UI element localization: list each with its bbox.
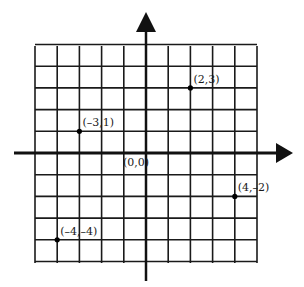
plotted-points: (2,3)(–3,1)(4,–2)(–4,–4) xyxy=(55,73,270,243)
point-label: (2,3) xyxy=(193,73,219,86)
point-label: (4,–2) xyxy=(238,181,270,194)
point-marker xyxy=(77,129,82,134)
point-marker xyxy=(55,237,60,242)
point-label: (–3,1) xyxy=(82,116,114,129)
coordinate-plane: (0,0) (2,3)(–3,1)(4,–2)(–4,–4) xyxy=(0,0,304,287)
point-marker xyxy=(232,194,237,199)
y-axis-arrow-icon xyxy=(136,12,156,32)
point-marker xyxy=(188,85,193,90)
x-axis-arrow-icon xyxy=(276,143,293,163)
origin-label: (0,0) xyxy=(123,156,149,169)
point-label: (–4,–4) xyxy=(60,225,97,238)
